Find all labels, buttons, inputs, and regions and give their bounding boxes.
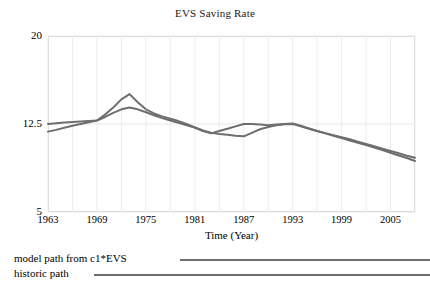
x-axis-title: Time (Year) (48, 229, 415, 241)
legend-swatch-model-path (180, 259, 430, 261)
legend-label-model-path: model path from c1*EVS (14, 252, 127, 264)
x-axis-tick-label: 1981 (170, 214, 220, 225)
legend-item-historic-path: historic path (14, 267, 430, 282)
y-axis-tick-label: 20 (2, 29, 42, 41)
x-axis-tick-label: 1963 (23, 214, 73, 225)
chart-legend: model path from c1*EVS historic path (14, 252, 430, 282)
x-axis-tick-label: 1969 (72, 214, 122, 225)
x-axis-tick-label: 2005 (366, 214, 416, 225)
x-axis-tick-label: 1987 (219, 214, 269, 225)
legend-item-model-path: model path from c1*EVS (14, 252, 430, 267)
series-lines (48, 94, 415, 161)
legend-swatch-historic-path (94, 274, 430, 276)
x-axis-tick-label: 1975 (121, 214, 171, 225)
x-axis-tick-label: 1993 (268, 214, 318, 225)
legend-label-historic-path: historic path (14, 267, 69, 279)
gridlines (48, 36, 415, 212)
chart-canvas (0, 0, 430, 293)
series-line-1 (48, 94, 415, 161)
x-axis-tick-label: 1999 (317, 214, 367, 225)
y-axis-tick-label: 12.5 (2, 117, 42, 129)
chart-figure: EVS Saving Rate 2012.55 1963196919751981… (0, 0, 430, 293)
